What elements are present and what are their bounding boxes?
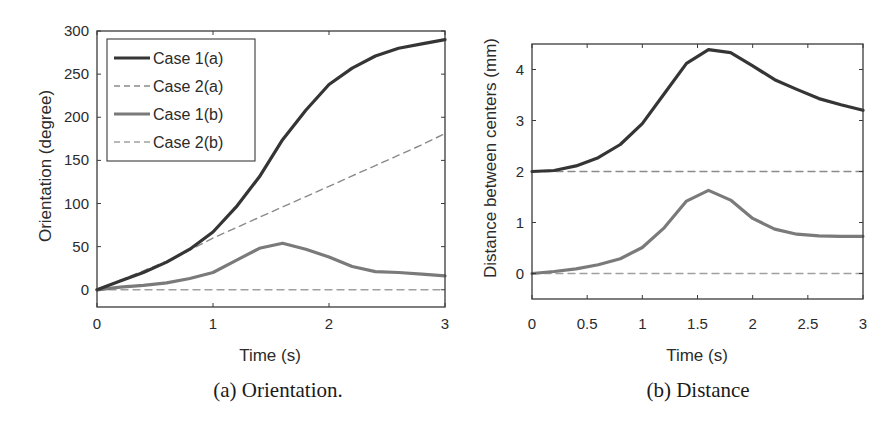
y-tick-label: 100 — [64, 195, 89, 212]
x-tick-label: 0 — [528, 315, 536, 332]
x-tick-label: 1 — [209, 315, 217, 332]
y-tick-label: 50 — [72, 238, 89, 255]
x-axis-label: Time (s) — [239, 346, 301, 365]
distance-series — [532, 50, 863, 274]
legend: Case 1(a) Case 2(a) Case 1(b) Case 2(b) — [107, 39, 255, 161]
legend-label: Case 1(a) — [153, 50, 223, 67]
series-line-case-1-b — [532, 190, 863, 273]
x-tick-labels: 0123 — [93, 315, 449, 332]
x-tick-labels: 00.511.522.53 — [528, 315, 867, 332]
distance-chart: 01234 00.511.522.53 Time (s) Distance be… — [481, 38, 867, 402]
x-tick-label: 2.5 — [797, 315, 818, 332]
x-tick-label: 0.5 — [577, 315, 598, 332]
y-tick-label: 3 — [516, 112, 524, 129]
series-line-case-1-b — [97, 243, 445, 290]
caption: (b) Distance — [646, 378, 749, 402]
legend-label: Case 2(a) — [153, 78, 223, 95]
y-tick-labels: 050100150200250300 — [64, 22, 89, 298]
x-tick-label: 2 — [325, 315, 333, 332]
y-tick-label: 4 — [516, 61, 524, 78]
caption: (a) Orientation. — [213, 378, 342, 402]
x-tick-label: 1.5 — [687, 315, 708, 332]
orientation-chart: 050100150200250300 0123 Time (s) Orienta… — [36, 22, 449, 402]
y-tick-label: 250 — [64, 65, 89, 82]
figure: 050100150200250300 0123 Time (s) Orienta… — [0, 0, 889, 432]
y-tick-labels: 01234 — [516, 61, 524, 282]
y-tick-label: 300 — [64, 22, 89, 39]
y-tick-label: 150 — [64, 151, 89, 168]
y-tick-label: 0 — [81, 281, 89, 298]
y-tick-label: 2 — [516, 163, 524, 180]
x-tick-label: 1 — [638, 315, 646, 332]
legend-label: Case 2(b) — [153, 134, 223, 151]
legend-label: Case 1(b) — [153, 106, 223, 123]
x-tick-label: 2 — [748, 315, 756, 332]
x-axis-label: Time (s) — [666, 346, 728, 365]
x-tick-label: 3 — [441, 315, 449, 332]
y-tick-label: 1 — [516, 214, 524, 231]
y-tick-label: 200 — [64, 108, 89, 125]
series-line-case-1-a — [532, 50, 863, 172]
y-axis-label: Distance between centers (mm) — [481, 38, 500, 278]
x-tick-label: 3 — [859, 315, 867, 332]
y-axis-label: Orientation (degree) — [36, 90, 55, 242]
x-tick-label: 0 — [93, 315, 101, 332]
y-tick-label: 0 — [516, 265, 524, 282]
